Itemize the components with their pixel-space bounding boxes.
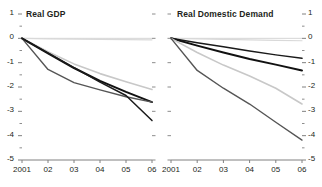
plot-area-left (0, 0, 161, 187)
x-axis-tick-label: 02 (183, 165, 211, 174)
x-axis-tick-label: 2001 (157, 165, 185, 174)
data-series-line (171, 38, 302, 140)
chart-panel-real-gdp: Real GDP 10-1-2-3-4-520010203040506 (0, 0, 161, 187)
y-axis-tick-label: -1 (0, 57, 14, 66)
y-axis-tick-label: -5 (308, 154, 322, 163)
x-axis-tick-label: 02 (34, 165, 62, 174)
y-axis-tick-label: -3 (308, 105, 322, 114)
data-series-line (171, 38, 302, 70)
y-axis-tick-label: -3 (0, 105, 14, 114)
y-axis-tick-label: 1 (308, 8, 322, 17)
y-axis-tick-label: -1 (308, 57, 322, 66)
y-axis-tick-label: 1 (0, 8, 14, 17)
y-axis-tick-label: -5 (0, 154, 14, 163)
y-axis-tick-label: -2 (0, 81, 14, 90)
x-axis-tick-label: 04 (86, 165, 114, 174)
x-axis-tick-label: 2001 (8, 165, 36, 174)
y-axis-tick-label: 0 (0, 32, 14, 41)
x-axis-tick-label: 05 (262, 165, 290, 174)
plot-area-right (161, 0, 322, 187)
y-axis-tick-label: -4 (0, 130, 14, 139)
data-series-line (22, 38, 152, 89)
x-axis-tick-label: 04 (236, 165, 264, 174)
x-axis-tick-label: 03 (209, 165, 237, 174)
x-axis-tick-label: 06 (288, 165, 316, 174)
y-axis-tick-label: -2 (308, 81, 322, 90)
y-axis-tick-label: 0 (308, 32, 322, 41)
chart-panel-real-domestic-demand: Real Domestic Demand 10-1-2-3-4-52001020… (161, 0, 322, 187)
y-axis-tick-label: -4 (308, 130, 322, 139)
x-axis-tick-label: 05 (112, 165, 140, 174)
panel-title-left: Real GDP (26, 9, 66, 19)
figure-root: Real GDP 10-1-2-3-4-520010203040506 Real… (0, 0, 322, 187)
panel-title-right: Real Domestic Demand (177, 9, 273, 19)
x-axis-tick-label: 03 (60, 165, 88, 174)
